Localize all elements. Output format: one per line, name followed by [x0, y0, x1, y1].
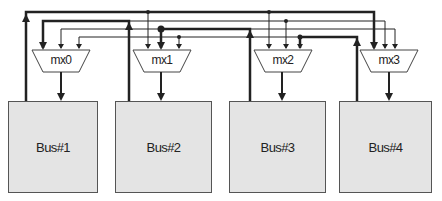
bus-box-3: Bus#3 — [229, 101, 326, 193]
bus-box-4: Bus#4 — [339, 101, 432, 193]
bus-label-3: Bus#3 — [261, 140, 295, 155]
bus-box-1: Bus#1 — [8, 101, 98, 193]
bus2-broadcast-line — [39, 19, 388, 101]
mux-label-mx1: mx1 — [142, 53, 182, 67]
bus-box-2: Bus#2 — [115, 101, 212, 193]
mux-label-mx2: mx2 — [263, 53, 303, 67]
bus-label-4: Bus#4 — [369, 140, 403, 155]
bus-label-2: Bus#2 — [147, 140, 181, 155]
mux-label-mx0: mx0 — [41, 53, 81, 67]
bus-label-1: Bus#1 — [36, 140, 70, 155]
bus4-broadcast-line — [76, 35, 361, 102]
mux-label-mx3: mx3 — [369, 53, 409, 67]
